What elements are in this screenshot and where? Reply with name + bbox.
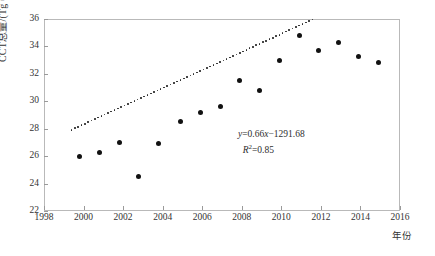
x-tick-mark [163, 206, 164, 210]
data-point [336, 40, 341, 45]
trendline-dot [199, 70, 201, 72]
x-tick-label: 2000 [66, 213, 102, 223]
trendline-dot [186, 76, 188, 78]
plot-area [44, 19, 400, 211]
trendline-dot [239, 52, 241, 54]
trendline-dot [308, 20, 310, 22]
trendline-dot [87, 121, 89, 123]
y-tick-mark [44, 101, 48, 102]
x-tick-mark [242, 206, 243, 210]
y-tick-label: 24 [15, 179, 39, 189]
data-point [297, 33, 302, 38]
data-point [117, 140, 122, 145]
r-value: =0.85 [252, 145, 274, 155]
x-tick-mark [44, 206, 45, 210]
x-tick-mark [123, 206, 124, 210]
eq-intercept: −1291.68 [268, 129, 304, 139]
trendline-dot [153, 91, 155, 93]
y-tick-mark [44, 46, 48, 47]
trendline-dot [166, 85, 168, 87]
trendline-dot [279, 34, 281, 36]
trendline-dot [246, 49, 248, 51]
x-tick-label: 1998 [26, 213, 62, 223]
y-tick-label: 26 [15, 151, 39, 161]
trendline-dot [209, 66, 211, 68]
data-point [77, 154, 82, 159]
x-tick-label: 2010 [263, 213, 299, 223]
y-tick-label: 30 [15, 96, 39, 106]
trendline-dot [173, 82, 175, 84]
y-tick-mark [44, 184, 48, 185]
trendline-dot [242, 51, 244, 53]
trendline-dot [219, 61, 221, 63]
data-point [277, 58, 282, 63]
trendline-dot [275, 35, 277, 37]
trendline-dot [84, 123, 86, 125]
trendline-dot [140, 97, 142, 99]
x-tick-label: 2014 [342, 213, 378, 223]
y-axis-title: CCT总量/(Tg C/a) [0, 0, 9, 62]
trendline-dot [101, 115, 103, 117]
x-tick-label: 2016 [382, 213, 418, 223]
x-tick-mark [321, 206, 322, 210]
trendline-dot [183, 78, 185, 80]
trendline-dot [272, 37, 274, 39]
regression-equation: y=0.66x−1291.68 [238, 128, 305, 141]
y-tick-label: 36 [15, 14, 39, 24]
data-point [97, 150, 102, 155]
trendline-dot [262, 41, 264, 43]
y-tick-mark [44, 156, 48, 157]
chart-figure: CCT总量/(Tg C/a) 年份 2224262830323436 19982… [0, 0, 435, 256]
data-point [218, 104, 223, 109]
x-tick-label: 2002 [105, 213, 141, 223]
trendline-dot [265, 40, 267, 42]
trendline-dot [120, 106, 122, 108]
y-tick-mark [44, 129, 48, 130]
y-tick-label: 32 [15, 69, 39, 79]
eq-coefficient: =0.66 [242, 129, 264, 139]
trendline-dot [127, 103, 129, 105]
r-squared-label: R2=0.85 [238, 141, 305, 157]
trendline-dot [134, 100, 136, 102]
x-tick-mark [360, 206, 361, 210]
trendline-dot [206, 67, 208, 69]
data-point [356, 54, 361, 59]
trendline-dot [107, 112, 109, 114]
trendline-dot [252, 46, 254, 48]
trendline-dot [288, 29, 290, 31]
trendline-dot [213, 64, 215, 66]
trendline-dot [216, 63, 218, 65]
y-tick-mark [44, 74, 48, 75]
trendline-dot [94, 118, 96, 120]
trendline-dot [232, 55, 234, 57]
trendline-dot [229, 57, 231, 59]
x-tick-label: 2006 [184, 213, 220, 223]
trendline-dot [74, 127, 76, 129]
trendline-dot [295, 26, 297, 28]
y-tick-label: 28 [15, 124, 39, 134]
y-tick-mark [44, 19, 48, 20]
x-tick-label: 2004 [145, 213, 181, 223]
data-point [257, 88, 262, 93]
data-point [198, 110, 203, 115]
x-tick-mark [202, 206, 203, 210]
regression-annotation: y=0.66x−1291.68 R2=0.85 [238, 128, 305, 157]
x-tick-label: 2012 [303, 213, 339, 223]
x-tick-label: 2008 [224, 213, 260, 223]
x-axis-title: 年份 [392, 228, 412, 242]
y-tick-label: 34 [15, 41, 39, 51]
x-tick-mark [84, 206, 85, 210]
trendline-dot [196, 72, 198, 74]
trendline-dot [77, 126, 79, 128]
x-tick-mark [400, 206, 401, 210]
x-tick-mark [281, 206, 282, 210]
